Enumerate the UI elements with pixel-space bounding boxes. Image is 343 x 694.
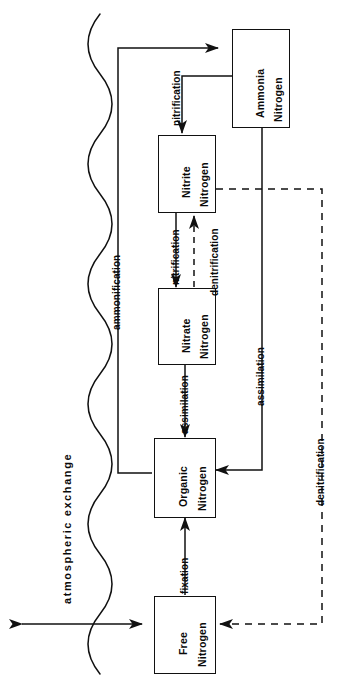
node-nitrite-nitrogen: Nitrite Nitrogen bbox=[158, 135, 216, 213]
edge-label-denitrification-1: denitrification bbox=[210, 228, 220, 296]
node-organic-nitrogen-line1: Organic bbox=[178, 466, 189, 507]
node-nitrate-nitrogen-line1: Nitrate bbox=[181, 318, 192, 353]
edge-denitrification-nitrite-to-free bbox=[216, 189, 322, 624]
edge-label-assimilation-2: assimilation bbox=[256, 347, 266, 406]
node-free-nitrogen-line2: Nitrogen bbox=[197, 622, 208, 667]
edge-label-fixation: fixation bbox=[180, 558, 190, 594]
node-free-nitrogen-line1: Free bbox=[178, 632, 189, 655]
node-organic-nitrogen: Organic Nitrogen bbox=[154, 438, 216, 518]
nitrogen-cycle-diagram: Ammonia Nitrogen Nitrite Nitrogen Nitrat… bbox=[0, 0, 343, 694]
page-edge-artifact bbox=[332, 600, 333, 606]
node-organic-nitrogen-line2: Nitrogen bbox=[197, 466, 208, 511]
node-ammonia-nitrogen: Ammonia Nitrogen bbox=[232, 29, 290, 128]
wavy-boundary-line bbox=[88, 14, 112, 674]
atmospheric-exchange-label: atmospheric exchange bbox=[62, 453, 73, 604]
edge-ammonification bbox=[118, 48, 218, 473]
node-nitrite-nitrogen-line1: Nitrite bbox=[181, 166, 192, 198]
edge-label-nitrification-1: nitrification bbox=[172, 70, 182, 126]
node-ammonia-nitrogen-line2: Nitrogen bbox=[273, 77, 284, 122]
node-nitrate-nitrogen: Nitrate Nitrogen bbox=[158, 288, 216, 365]
node-nitrite-nitrogen-line2: Nitrogen bbox=[199, 162, 210, 207]
edge-label-assimilation-1: assimilation bbox=[180, 375, 190, 434]
edge-label-denitrification-2: denitrification bbox=[316, 438, 326, 506]
edge-label-ammonification: ammonification bbox=[112, 255, 122, 330]
node-nitrate-nitrogen-line2: Nitrogen bbox=[199, 314, 210, 359]
edge-assimilation-ammonia-to-organic bbox=[216, 128, 262, 470]
edge-label-nitrification-2: nitrification bbox=[171, 229, 181, 285]
node-ammonia-nitrogen-line1: Ammonia bbox=[255, 69, 266, 118]
node-free-nitrogen: Free Nitrogen bbox=[154, 596, 216, 674]
